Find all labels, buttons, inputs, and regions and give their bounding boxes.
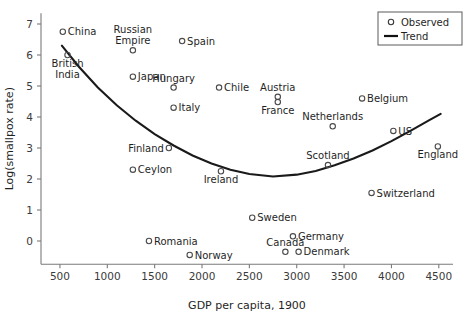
x-tick-label: 1500 (141, 270, 168, 282)
data-points (60, 29, 440, 258)
x-tick-label: 2000 (189, 270, 216, 282)
point-label: Norway (195, 250, 233, 261)
data-point-marker (218, 169, 223, 174)
point-label: RussianEmpire (114, 24, 153, 46)
data-point-marker (130, 48, 135, 53)
x-axis-title: GDP per capita, 1900 (188, 299, 306, 312)
y-axis-title: Log(smallpox rate) (3, 87, 16, 190)
point-label: Switzerland (377, 188, 435, 199)
data-point-marker (359, 96, 364, 101)
point-label: Ireland (204, 174, 239, 185)
data-point-marker (146, 238, 151, 243)
point-label: BritishIndia (52, 58, 84, 80)
data-point-marker (171, 105, 176, 110)
point-label: Romania (154, 236, 198, 247)
x-tick-label: 500 (50, 270, 70, 282)
x-tick-label: 2500 (236, 270, 263, 282)
trend-line-path (62, 46, 441, 177)
data-point-marker (391, 128, 396, 133)
data-point-marker (216, 85, 221, 90)
y-tick-label: 2 (26, 173, 33, 185)
chart-legend: ObservedTrend (378, 12, 462, 45)
point-label: Sweden (257, 212, 297, 223)
data-point-marker (130, 74, 135, 79)
y-tick-label: 0 (26, 235, 33, 247)
y-tick-label: 6 (26, 49, 33, 61)
point-label: Belgium (367, 93, 408, 104)
point-label: France (261, 105, 294, 116)
y-tick-label: 7 (26, 18, 33, 30)
axes: 0123456750010001500200025003000350040004… (26, 13, 453, 282)
legend-observed-label: Observed (401, 17, 449, 28)
x-tick-label: 3500 (331, 270, 358, 282)
point-label: Austria (260, 82, 295, 93)
point-label: Germany (298, 231, 344, 242)
point-label: Hungary (152, 73, 195, 84)
y-tick-label: 4 (26, 111, 33, 123)
data-point-marker (130, 167, 135, 172)
x-tick-label: 3000 (283, 270, 310, 282)
data-point-marker (435, 144, 440, 149)
x-tick-label: 1000 (94, 270, 121, 282)
data-point-marker (296, 249, 301, 254)
point-label: US (398, 126, 412, 137)
data-point-marker (179, 38, 184, 43)
data-point-marker (166, 145, 171, 150)
point-label: Scotland (306, 150, 349, 161)
point-label: Netherlands (302, 111, 363, 122)
data-point-marker (60, 29, 65, 34)
data-point-marker (369, 190, 374, 195)
data-point-marker (283, 249, 288, 254)
point-label: China (68, 26, 97, 37)
point-label: Finland (128, 143, 164, 154)
trend-curve (62, 46, 441, 177)
chart-canvas: 0123456750010001500200025003000350040004… (0, 0, 471, 319)
data-point-marker (250, 215, 255, 220)
point-label: Denmark (304, 246, 350, 257)
x-tick-label: 4000 (378, 270, 405, 282)
point-label: Ceylon (138, 164, 172, 175)
data-point-marker (275, 94, 280, 99)
y-tick-label: 1 (26, 204, 33, 216)
point-label: Chile (224, 82, 249, 93)
point-label: England (418, 149, 459, 160)
smallpox-gdp-scatter-figure: 0123456750010001500200025003000350040004… (0, 0, 471, 319)
data-point-marker (330, 124, 335, 129)
y-tick-label: 3 (26, 142, 33, 154)
point-labels: ChinaBritishIndiaRussianEmpireSpainJapan… (52, 24, 459, 260)
point-label: Spain (187, 36, 215, 47)
point-label: Italy (179, 102, 201, 113)
point-label: Canada (266, 237, 304, 248)
y-tick-label: 5 (26, 80, 33, 92)
data-point-marker (187, 252, 192, 257)
data-point-marker (171, 85, 176, 90)
x-tick-label: 4500 (425, 270, 452, 282)
legend-trend-label: Trend (400, 31, 428, 42)
data-point-marker (275, 99, 280, 104)
